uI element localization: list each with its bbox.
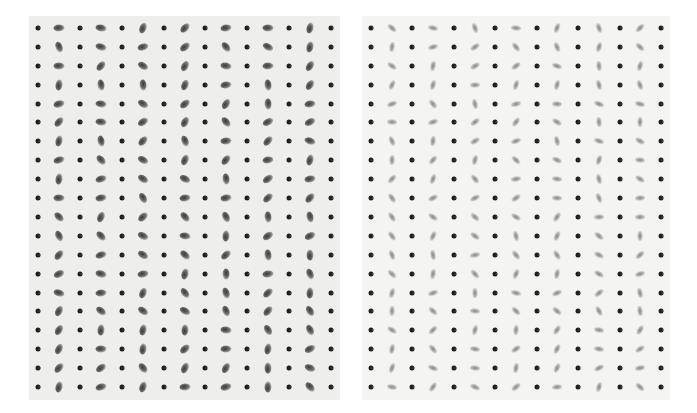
- dot-mark: [36, 290, 41, 295]
- dot-mark: [576, 101, 581, 106]
- dot-mark: [36, 120, 41, 125]
- dot-mark: [410, 366, 415, 371]
- dot-mark: [203, 82, 208, 87]
- dot-mark: [576, 309, 581, 314]
- dot-mark: [534, 271, 539, 276]
- blob-mark: [95, 118, 107, 126]
- blob-mark: [223, 268, 230, 279]
- dot-mark: [329, 158, 334, 163]
- blob-mark: [388, 344, 395, 355]
- dot-mark: [245, 271, 250, 276]
- dot-mark: [369, 328, 374, 333]
- dot-mark: [329, 347, 334, 352]
- blob-mark: [386, 100, 397, 108]
- blob-mark: [178, 306, 191, 317]
- blob-mark: [222, 230, 230, 241]
- dot-mark: [369, 63, 374, 68]
- dot-mark: [451, 82, 456, 87]
- dot-mark: [576, 177, 581, 182]
- dot-mark: [161, 252, 166, 257]
- blob-mark: [178, 97, 191, 109]
- blob-mark: [262, 192, 275, 205]
- blob-mark: [262, 324, 274, 337]
- dot-mark: [410, 347, 415, 352]
- dot-mark: [369, 139, 374, 144]
- blob-mark: [553, 230, 562, 241]
- blob-mark: [137, 269, 149, 278]
- blob-mark: [593, 137, 604, 145]
- dot-mark: [203, 366, 208, 371]
- blob-mark: [428, 325, 439, 336]
- blob-mark: [429, 174, 437, 185]
- dot-mark: [576, 366, 581, 371]
- dot-mark: [617, 252, 622, 257]
- dot-mark: [493, 328, 498, 333]
- dot-mark: [203, 196, 208, 201]
- dot-mark: [410, 328, 415, 333]
- dot-mark: [329, 26, 334, 31]
- blob-mark: [53, 62, 64, 69]
- dot-mark: [77, 139, 82, 144]
- dot-mark: [576, 214, 581, 219]
- dot-mark: [493, 233, 498, 238]
- blob-mark: [95, 269, 107, 279]
- dot-mark: [245, 26, 250, 31]
- blob-mark: [388, 363, 396, 374]
- dot-mark: [534, 328, 539, 333]
- blob-mark: [305, 211, 314, 223]
- dot-mark: [493, 252, 498, 257]
- blob-mark: [595, 382, 603, 393]
- dot-mark: [369, 158, 374, 163]
- dot-mark: [576, 158, 581, 163]
- blob-mark: [136, 305, 149, 317]
- blob-mark: [428, 364, 439, 372]
- dot-mark: [534, 309, 539, 314]
- blob-mark: [511, 41, 521, 52]
- blob-mark: [386, 326, 397, 336]
- blob-mark: [136, 60, 149, 72]
- blob-mark: [638, 231, 643, 241]
- dot-mark: [203, 271, 208, 276]
- dot-mark: [534, 82, 539, 87]
- blob-mark: [137, 192, 148, 205]
- dot-mark: [659, 366, 664, 371]
- blob-mark: [262, 286, 275, 299]
- dot-mark: [659, 158, 664, 163]
- dot-mark: [119, 328, 124, 333]
- blob-mark: [388, 42, 395, 53]
- dot-mark: [161, 366, 166, 371]
- dot-mark: [493, 139, 498, 144]
- blob-mark: [220, 40, 232, 53]
- dot-mark: [119, 196, 124, 201]
- dot-mark: [329, 44, 334, 49]
- dot-mark: [410, 82, 415, 87]
- dot-mark: [77, 309, 82, 314]
- dot-mark: [576, 82, 581, 87]
- blob-mark: [304, 363, 317, 374]
- dot-mark: [161, 158, 166, 163]
- dot-mark: [329, 252, 334, 257]
- blob-mark: [95, 288, 107, 296]
- dot-mark: [576, 233, 581, 238]
- dot-mark: [203, 101, 208, 106]
- dot-mark: [245, 44, 250, 49]
- blob-mark: [469, 174, 479, 185]
- blob-mark: [553, 325, 563, 336]
- blob-mark: [304, 381, 317, 394]
- blob-mark: [304, 99, 316, 108]
- dot-mark: [287, 366, 292, 371]
- dot-mark: [410, 101, 415, 106]
- dot-mark: [329, 309, 334, 314]
- blob-mark: [429, 79, 437, 90]
- blob-mark: [179, 154, 190, 167]
- dot-mark: [245, 252, 250, 257]
- blob-mark: [511, 155, 522, 165]
- dot-mark: [245, 120, 250, 125]
- blob-mark: [265, 363, 272, 374]
- blob-mark: [469, 383, 480, 392]
- dot-mark: [410, 26, 415, 31]
- blob-mark: [179, 59, 190, 72]
- blob-mark: [635, 344, 646, 353]
- left-panel: [29, 16, 340, 400]
- dot-mark: [287, 177, 292, 182]
